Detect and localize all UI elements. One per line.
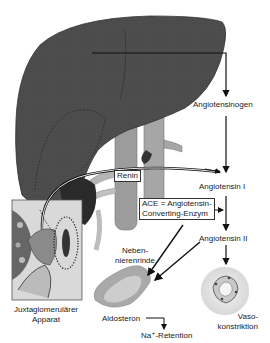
label-juxtaglomerular: Juxtaglomerulärer Apparat — [5, 305, 87, 325]
label-ace-line1: ACE = Angiotensin- — [142, 199, 212, 209]
label-vaso-line2: konstriktion — [214, 322, 258, 332]
label-ace: ACE = Angiotensin- Converting-Enzym — [139, 198, 215, 220]
raas-diagram: Angiotensinogen Renin Angiotensin I ACE … — [0, 0, 270, 343]
aorta — [141, 110, 182, 210]
label-na-retention: Na⁺-Retention — [141, 331, 192, 341]
label-vasokonstriktion: Vaso- konstriktion — [214, 312, 258, 332]
label-vaso-line1: Vaso- — [214, 312, 258, 322]
label-ace-line2: Converting-Enzym — [142, 209, 212, 219]
label-juxta-line1: Juxtaglomerulärer — [5, 305, 87, 315]
juxtaglomerular-apparatus — [12, 200, 82, 300]
label-aldosteron: Aldosteron — [102, 314, 140, 324]
label-nebennierenrinde: Neben- nierenrinde — [110, 246, 160, 266]
label-nebennierenrinde-line2: nierenrinde — [110, 256, 160, 266]
adrenal-cortex — [94, 266, 150, 308]
label-nebennierenrinde-line1: Neben- — [110, 246, 160, 256]
label-angiotensin-2: Angiotensin II — [199, 234, 247, 244]
label-angiotensin-1: Angiotensin I — [199, 182, 245, 192]
label-juxta-line2: Apparat — [5, 315, 87, 325]
label-renin: Renin — [114, 170, 141, 182]
blood-vessel-cross-section — [201, 267, 249, 315]
label-angiotensinogen: Angiotensinogen — [193, 100, 253, 110]
